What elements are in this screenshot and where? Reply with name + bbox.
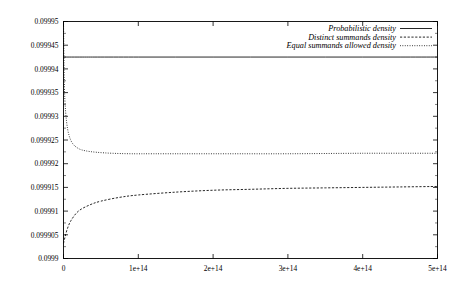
x-tick-label-1: 1e+14 (129, 264, 148, 273)
legend-label-2: Equal summands allowed density (286, 41, 397, 50)
x-tick-label-4: 4e+14 (353, 264, 372, 273)
series-curve-1 (64, 186, 438, 243)
y-tick-label-6: 0.09993 (34, 112, 58, 121)
y-tick-label-9: 0.099945 (31, 41, 59, 50)
y-tick-label-8: 0.09994 (34, 65, 58, 74)
chart-figure: 0.09990.0999050.099910.0999150.099920.09… (0, 0, 454, 289)
y-tick-label-3: 0.099915 (31, 183, 59, 192)
x-tick-label-0: 0 (62, 264, 66, 273)
y-tick-label-4: 0.09992 (34, 159, 58, 168)
y-tick-label-1: 0.099905 (31, 231, 59, 240)
x-tick-label-3: 3e+14 (279, 264, 298, 273)
plot-canvas: 0.09990.0999050.099910.0999150.099920.09… (0, 0, 454, 289)
y-tick-label-7: 0.099935 (31, 88, 59, 97)
x-tick-label-5: 5e+14 (428, 264, 447, 273)
y-tick-label-5: 0.099925 (31, 136, 59, 145)
y-tick-label-10: 0.09995 (34, 17, 58, 26)
x-tick-label-2: 2e+14 (204, 264, 223, 273)
y-tick-label-2: 0.09991 (34, 207, 58, 216)
y-tick-label-0: 0.0999 (38, 254, 59, 263)
